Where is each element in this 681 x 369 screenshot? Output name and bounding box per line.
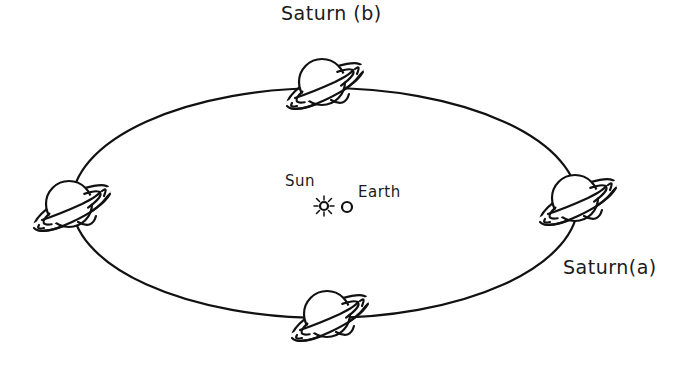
label-saturn-b: Saturn (b)	[281, 2, 382, 24]
earth-circle-icon	[342, 202, 352, 212]
saturn-left-icon	[29, 177, 115, 239]
diagram-canvas	[0, 0, 681, 369]
saturn-orbit-diagram: Saturn (b) Saturn(a) Sun Earth	[0, 0, 681, 369]
saturn-right-icon	[535, 171, 621, 233]
label-saturn-a: Saturn(a)	[563, 256, 657, 278]
saturn-top-icon	[282, 55, 368, 117]
label-earth: Earth	[358, 183, 401, 201]
label-sun: Sun	[285, 172, 315, 190]
sun-icon	[314, 196, 334, 216]
